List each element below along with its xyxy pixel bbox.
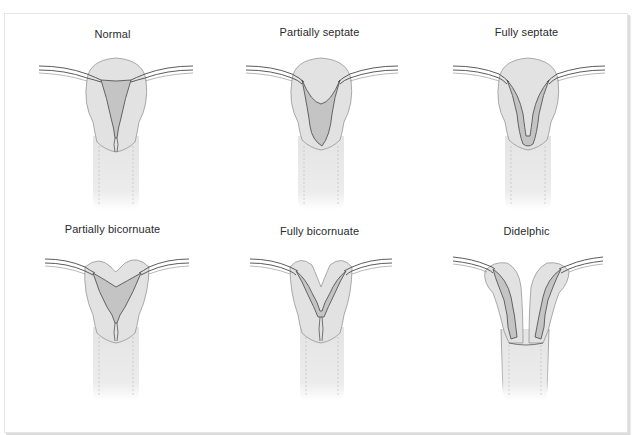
panel-partially-septate: Partially septate	[216, 18, 423, 227]
normal-uterus-illustration	[9, 18, 216, 227]
figure-frame: Normal Partially septate	[4, 13, 628, 433]
panel-fully-bicornuate: Fully bicornuate	[216, 223, 423, 432]
partially-bicornuate-uterus-illustration	[9, 223, 216, 432]
panel-fully-septate: Fully septate	[423, 18, 630, 227]
panel-partially-bicornuate: Partially bicornuate	[9, 223, 216, 432]
fully-septate-uterus-illustration	[423, 18, 630, 227]
partially-septate-uterus-illustration	[216, 18, 423, 227]
panel-didelphic: Didelphic	[423, 223, 630, 432]
fully-bicornuate-uterus-illustration	[216, 223, 423, 432]
didelphic-uterus-illustration	[423, 223, 630, 432]
panel-normal: Normal	[9, 18, 216, 227]
